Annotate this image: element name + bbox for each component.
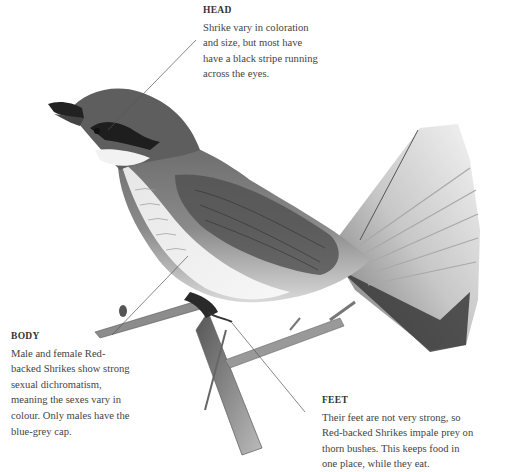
head-callout-text: Shrike vary in coloration and size, but … (203, 20, 403, 82)
body-callout-text: Male and female Red- backed Shrikes show… (11, 346, 176, 440)
head-callout: HEAD Shrike vary in coloration and size,… (203, 3, 403, 82)
feet-callout-title: FEET (322, 393, 505, 409)
head-callout-title: HEAD (203, 3, 403, 19)
feet-callout-text: Their feet are not very strong, so Red-b… (322, 410, 505, 472)
body-callout: BODY Male and female Red- backed Shrikes… (11, 329, 176, 439)
feet-callout: FEET Their feet are not very strong, so … (322, 393, 505, 472)
tail (330, 124, 480, 352)
bird-body (118, 137, 370, 302)
body-callout-title: BODY (11, 329, 176, 345)
